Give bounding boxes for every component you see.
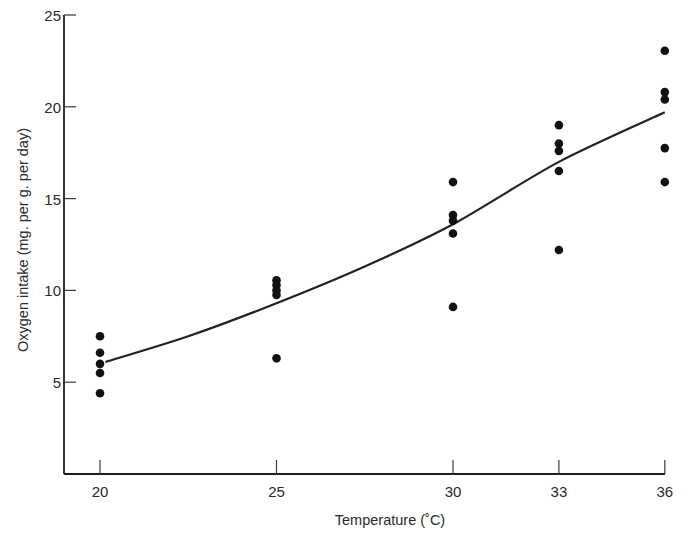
x-tick-label: 30 [445,483,462,500]
x-tick-label: 33 [551,483,568,500]
data-point [555,246,564,255]
x-axis: 2025303336 [64,460,673,500]
y-tick-label: 5 [53,374,61,391]
data-point [96,360,105,369]
x-tick-label: 25 [268,483,285,500]
data-point [661,144,670,153]
data-point [449,216,458,225]
data-point [555,121,564,130]
data-point [661,88,670,97]
data-point [449,303,458,312]
y-axis: 510152025 [44,7,76,474]
x-tick-label: 20 [92,483,109,500]
x-axis-title: Temperature (˚C) [335,512,445,528]
x-tick-label: 36 [656,483,673,500]
y-tick-label: 20 [44,99,61,116]
oxygen-temperature-chart: 510152025 2025303336 Temperature (˚C) Ox… [0,0,690,540]
data-point [661,178,670,187]
data-point [96,369,105,378]
data-point [272,354,281,363]
data-point [661,95,670,104]
data-point [555,139,564,148]
data-point [272,291,281,300]
mean-curve [105,112,665,362]
data-point [555,167,564,176]
y-tick-label: 10 [44,282,61,299]
data-point [555,147,564,156]
data-point [449,229,458,238]
y-tick-label: 15 [44,191,61,208]
y-tick-label: 25 [44,7,61,24]
data-point [96,349,105,358]
mean-curve-path [105,112,665,362]
data-point [449,178,458,187]
chart-canvas: 510152025 2025303336 Temperature (˚C) Ox… [0,0,690,540]
data-point [96,389,105,398]
data-point [96,332,105,341]
data-points [96,47,669,398]
data-point [661,47,670,56]
y-axis-title: Oxygen intake (mg. per g. per day) [15,128,31,352]
